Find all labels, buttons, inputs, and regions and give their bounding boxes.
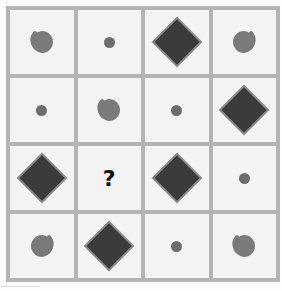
spiral-icon bbox=[89, 90, 129, 130]
dot-icon bbox=[104, 37, 115, 48]
cell-r4-c1 bbox=[10, 214, 74, 278]
cell-r3-c4 bbox=[213, 146, 277, 210]
scan-edge-line bbox=[0, 286, 40, 287]
cell-r3-c1 bbox=[10, 146, 74, 210]
question-mark: ? bbox=[103, 166, 116, 191]
diamond-icon bbox=[222, 87, 267, 132]
dot-icon bbox=[171, 241, 182, 252]
spiral-reverse-icon bbox=[22, 226, 62, 266]
cell-r3-c2-missing[interactable]: ? bbox=[78, 146, 142, 210]
diamond-icon bbox=[19, 155, 64, 200]
cell-r2-c3 bbox=[145, 78, 209, 142]
cell-r1-c2 bbox=[78, 10, 142, 74]
cell-r2-c2 bbox=[78, 78, 142, 142]
dot-icon bbox=[36, 105, 47, 116]
dot-icon bbox=[171, 105, 182, 116]
spiral-reverse-icon bbox=[224, 22, 264, 62]
dot-icon bbox=[239, 173, 250, 184]
cell-r2-c1 bbox=[10, 78, 74, 142]
cell-r4-c2 bbox=[78, 214, 142, 278]
diamond-icon bbox=[87, 223, 132, 268]
cell-r4-c3 bbox=[145, 214, 209, 278]
spiral-icon bbox=[224, 226, 264, 266]
cell-r1-c3 bbox=[145, 10, 209, 74]
cell-r3-c3 bbox=[145, 146, 209, 210]
cell-r4-c4 bbox=[213, 214, 277, 278]
diamond-icon bbox=[154, 19, 199, 64]
cell-r2-c4 bbox=[213, 78, 277, 142]
diamond-icon bbox=[154, 155, 199, 200]
puzzle-grid: ? bbox=[6, 6, 280, 282]
cell-r1-c1 bbox=[10, 10, 74, 74]
spiral-icon bbox=[22, 22, 62, 62]
cell-r1-c4 bbox=[213, 10, 277, 74]
